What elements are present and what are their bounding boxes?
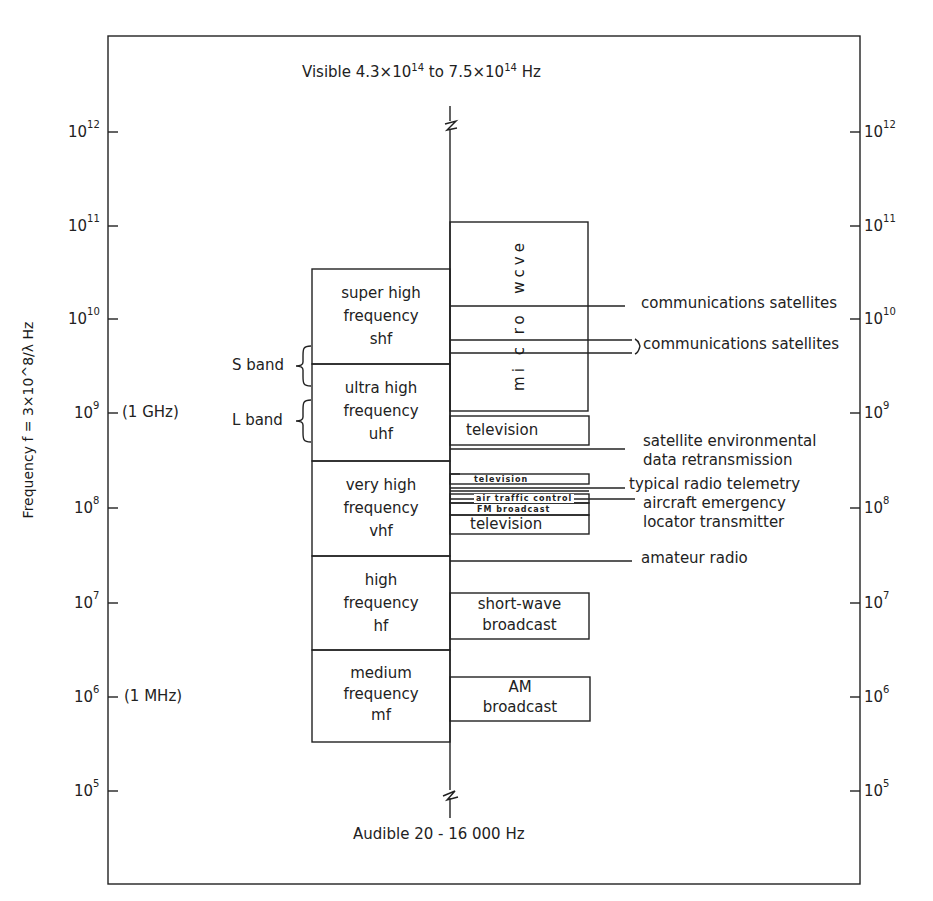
- band-line: uhf: [312, 423, 450, 446]
- s-band-label: S band: [232, 357, 284, 374]
- band-line: mf: [312, 705, 450, 726]
- tick-exp: 11: [87, 213, 100, 224]
- tick-exp: 10: [883, 306, 896, 317]
- tick-exp: 11: [883, 213, 896, 224]
- band-shf: super high frequency shf: [312, 282, 450, 351]
- annotation-comm-sat-2: communications satellites: [643, 336, 839, 353]
- l-band-label: L band: [232, 412, 283, 429]
- tick-exp: 5: [883, 778, 889, 789]
- band-line: high: [312, 569, 450, 592]
- left-tick-1e9: 109: [74, 403, 99, 422]
- annotation-line: satellite environmental: [643, 432, 816, 451]
- band-uhf: ultra high frequency uhf: [312, 377, 450, 446]
- annotation-amateur-radio: amateur radio: [641, 550, 748, 567]
- left-tick-1e8: 108: [74, 498, 99, 517]
- service-am: AM broadcast: [450, 677, 590, 717]
- left-tick-note-mhz: (1 MHz): [124, 687, 182, 705]
- tick-exp: 12: [87, 119, 100, 130]
- band-line: hf: [312, 615, 450, 638]
- annotation-comm-sat-1: communications satellites: [641, 295, 837, 312]
- annotation-satellite-env: satellite environmental data retransmiss…: [643, 432, 816, 470]
- tick-exp: 7: [93, 590, 99, 601]
- band-line: shf: [312, 328, 450, 351]
- left-tick-1e5: 105: [74, 781, 99, 800]
- left-tick-1e6: 106: [74, 687, 99, 706]
- service-television-vhf: television: [470, 516, 542, 533]
- microwave-part: ro: [510, 311, 528, 334]
- visible-prefix: Visible 4.3×10: [302, 63, 411, 81]
- band-line: frequency: [312, 400, 450, 423]
- band-line: super high: [312, 282, 450, 305]
- band-line: very high: [312, 474, 450, 497]
- microwave-part: c: [510, 343, 528, 355]
- visible-exp1: 14: [411, 62, 424, 73]
- right-tick-1e10: 1010: [864, 309, 896, 328]
- band-hf: high frequency hf: [312, 569, 450, 638]
- left-tick-1e12: 1012: [68, 122, 100, 141]
- visible-exp2: 14: [504, 62, 517, 73]
- service-line: broadcast: [450, 697, 590, 717]
- service-line: AM: [450, 677, 590, 697]
- service-television-small: television: [474, 475, 528, 484]
- band-line: medium: [312, 663, 450, 684]
- band-line: frequency: [312, 497, 450, 520]
- right-tick-1e7: 107: [864, 593, 889, 612]
- band-line: frequency: [312, 592, 450, 615]
- annotation-radio-telemetry: typical radio telemetry: [629, 476, 800, 493]
- tick-exp: 9: [93, 400, 99, 411]
- band-line: frequency: [312, 684, 450, 705]
- service-line: short-wave: [450, 594, 589, 615]
- service-line: broadcast: [450, 615, 589, 636]
- band-vhf: very high frequency vhf: [312, 474, 450, 543]
- band-mf: medium frequency mf: [312, 663, 450, 726]
- right-tick-1e9: 109: [864, 403, 889, 422]
- service-air-traffic-control: air traffic control: [474, 494, 574, 503]
- tick-exp: 6: [883, 684, 889, 695]
- visible-range-label: Visible 4.3×1014 to 7.5×1014 Hz: [302, 62, 541, 81]
- tick-exp: 9: [883, 400, 889, 411]
- left-tick-1e10: 1010: [68, 309, 100, 328]
- frequency-spectrum-diagram: Visible 4.3×1014 to 7.5×1014 Hz Audible …: [0, 0, 933, 901]
- annotation-line: data retransmission: [643, 451, 816, 470]
- tick-exp: 8: [93, 495, 99, 506]
- audible-range-label: Audible 20 - 16 000 Hz: [353, 826, 525, 843]
- right-tick-1e8: 108: [864, 498, 889, 517]
- tick-exp: 5: [93, 778, 99, 789]
- service-short-wave: short-wave broadcast: [450, 594, 589, 636]
- service-fm-broadcast: FM broadcast: [477, 505, 550, 514]
- right-tick-1e12: 1012: [864, 122, 896, 141]
- left-tick-1e7: 107: [74, 593, 99, 612]
- right-tick-1e5: 105: [864, 781, 889, 800]
- annotation-line: aircraft emergency: [643, 494, 786, 513]
- visible-mid: to 7.5×10: [424, 63, 504, 81]
- tick-exp: 12: [883, 119, 896, 130]
- band-line: ultra high: [312, 377, 450, 400]
- microwave-part: wcve: [510, 239, 528, 294]
- tick-exp: 10: [87, 306, 100, 317]
- visible-suffix: Hz: [517, 63, 541, 81]
- microwave-part: mi: [510, 364, 528, 391]
- left-tick-1e11: 1011: [68, 216, 100, 235]
- service-television-uhf: television: [466, 422, 538, 439]
- band-line: vhf: [312, 520, 450, 543]
- tick-exp: 7: [883, 590, 889, 601]
- right-tick-1e6: 106: [864, 687, 889, 706]
- tick-exp: 8: [883, 495, 889, 506]
- right-tick-1e11: 1011: [864, 216, 896, 235]
- annotation-line: locator transmitter: [643, 513, 786, 532]
- y-axis-label: Frequency f = 3×10^8/λ Hz: [20, 300, 36, 540]
- band-line: frequency: [312, 305, 450, 328]
- annotation-aircraft-elt: aircraft emergency locator transmitter: [643, 494, 786, 532]
- left-tick-note-ghz: (1 GHz): [122, 403, 179, 421]
- tick-exp: 6: [93, 684, 99, 695]
